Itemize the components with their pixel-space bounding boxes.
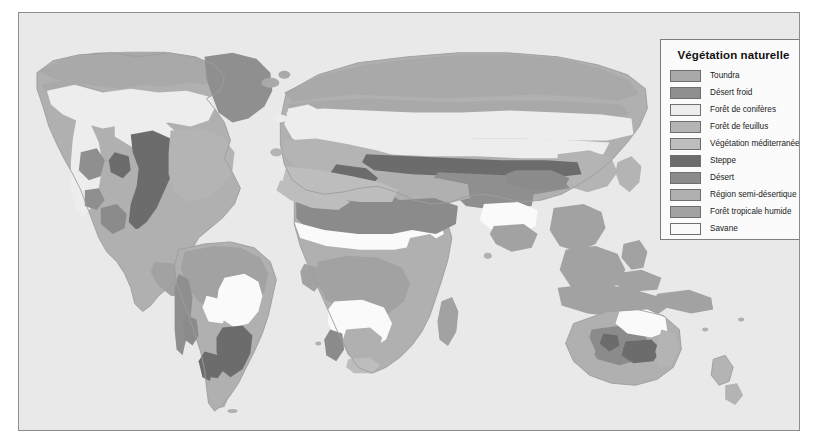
legend-label-desert: Désert: [710, 173, 734, 183]
legend-swatch-desert: [670, 172, 701, 184]
legend-label-foret-tropicale-humide: Forêt tropicale humide: [710, 207, 791, 217]
legend-label-steppe: Steppe: [710, 156, 736, 166]
legend-item-desert-froid: Désert froid: [670, 85, 797, 101]
map-plate: .ocean { fill:#e9e9e9; } .outline { fill…: [18, 12, 800, 431]
legend-label-savane: Savane: [710, 224, 738, 234]
legend-item-desert: Désert: [670, 170, 797, 186]
legend-label-foret-coniferes: Forêt de conifères: [710, 105, 776, 115]
legend-item-toundra: Toundra: [670, 68, 797, 84]
legend-label-region-semi-desertique: Région semi-désertique: [710, 190, 796, 200]
legend-item-vegetation-mediterraneenne: Végétation méditerranéenne: [670, 136, 797, 152]
legend-label-foret-feuillus: Forêt de feuillus: [710, 122, 768, 132]
legend-swatch-vegetation-mediterraneenne: [670, 138, 701, 150]
map-legend: Végétation naturelle Toundra Désert froi…: [660, 39, 800, 240]
legend-swatch-region-semi-desertique: [670, 189, 701, 201]
legend-item-region-semi-desertique: Région semi-désertique: [670, 187, 797, 203]
legend-swatch-foret-tropicale-humide: [670, 206, 701, 218]
legend-item-foret-feuillus: Forêt de feuillus: [670, 119, 797, 135]
legend-swatch-foret-feuillus: [670, 121, 701, 133]
legend-swatch-savane: [670, 223, 701, 235]
legend-item-foret-coniferes: Forêt de conifères: [670, 102, 797, 118]
legend-swatch-steppe: [670, 155, 701, 167]
legend-label-desert-froid: Désert froid: [710, 88, 752, 98]
legend-swatch-foret-coniferes: [670, 104, 701, 116]
legend-swatch-desert-froid: [670, 87, 701, 99]
page-root: .ocean { fill:#e9e9e9; } .outline { fill…: [0, 0, 815, 446]
legend-swatch-toundra: [670, 70, 701, 82]
legend-title: Végétation naturelle: [670, 49, 797, 61]
legend-item-savane: Savane: [670, 221, 797, 237]
legend-item-foret-tropicale-humide: Forêt tropicale humide: [670, 204, 797, 220]
legend-item-steppe: Steppe: [670, 153, 797, 169]
legend-label-vegetation-mediterraneenne: Végétation méditerranéenne: [710, 139, 800, 149]
legend-label-toundra: Toundra: [710, 71, 740, 81]
